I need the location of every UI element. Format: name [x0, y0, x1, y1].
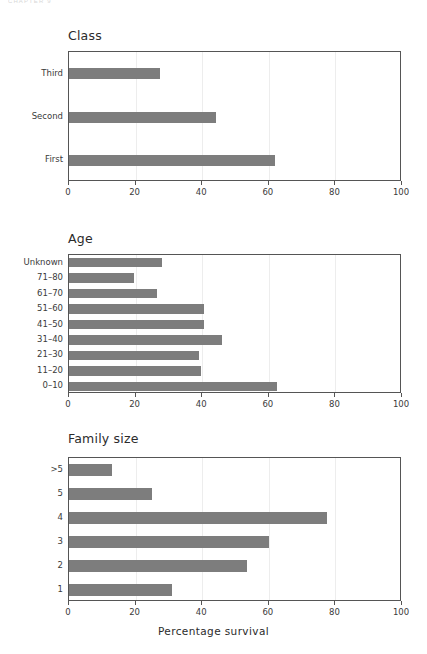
bar-row: [69, 536, 402, 548]
category-label: 4: [58, 512, 63, 522]
bar-row: [69, 289, 402, 299]
gridline: [269, 458, 270, 600]
x-tick-label: 60: [262, 607, 273, 617]
x-tick: [135, 393, 136, 397]
category-label: Third: [41, 68, 63, 78]
bar: [69, 68, 160, 79]
x-tick-label: 80: [329, 607, 340, 617]
bar-row: [69, 273, 402, 283]
x-tick-label: 0: [65, 399, 70, 409]
bar-row: [69, 382, 402, 392]
bar-row: [69, 560, 402, 572]
x-tick: [334, 393, 335, 397]
category-label: 61–70: [37, 288, 63, 298]
category-label: Second: [32, 111, 63, 121]
category-label: 0–10: [43, 380, 63, 390]
category-label: >5: [50, 464, 63, 474]
category-label: 1: [58, 584, 63, 594]
bar: [69, 560, 247, 572]
chart-title: Family size: [68, 431, 139, 446]
x-tick: [401, 393, 402, 397]
x-tick-label: 40: [196, 607, 207, 617]
x-tick: [401, 601, 402, 605]
x-tick: [268, 601, 269, 605]
bar-row: [69, 366, 402, 376]
category-label: 5: [58, 488, 63, 498]
plot-area: [68, 457, 401, 601]
x-tick-label: 80: [329, 187, 340, 197]
category-label: 3: [58, 536, 63, 546]
category-label: 31–40: [37, 334, 63, 344]
x-tick-label: 100: [393, 187, 409, 197]
x-tick-label: 100: [393, 607, 409, 617]
bar: [69, 382, 277, 392]
running-header: CHAPTER 9: [8, 0, 52, 5]
x-tick-label: 60: [262, 399, 273, 409]
x-tick: [268, 181, 269, 185]
x-tick-label: 0: [65, 187, 70, 197]
bar-row: [69, 68, 402, 79]
x-tick: [268, 393, 269, 397]
x-tick-label: 100: [393, 399, 409, 409]
bar: [69, 351, 199, 361]
bar: [69, 335, 222, 345]
x-tick-label: 40: [196, 399, 207, 409]
bar-row: [69, 304, 402, 314]
bar-row: [69, 335, 402, 345]
x-tick-label: 20: [129, 399, 140, 409]
bar-row: [69, 584, 402, 596]
gridline: [136, 458, 137, 600]
x-tick: [135, 181, 136, 185]
x-tick: [201, 393, 202, 397]
bar: [69, 320, 204, 330]
bar: [69, 304, 204, 314]
category-label: Unknown: [24, 257, 63, 267]
x-tick: [334, 181, 335, 185]
category-label: 2: [58, 560, 63, 570]
x-tick: [401, 181, 402, 185]
bar-row: [69, 512, 402, 524]
bar: [69, 289, 157, 299]
bar-row: [69, 464, 402, 476]
bar: [69, 488, 152, 500]
x-tick: [334, 601, 335, 605]
category-label: 51–60: [37, 303, 63, 313]
gridline: [202, 458, 203, 600]
bar-row: [69, 488, 402, 500]
x-axis-title: Percentage survival: [0, 625, 427, 637]
x-tick: [201, 181, 202, 185]
category-label: 11–20: [37, 365, 63, 375]
bar: [69, 536, 269, 548]
gridline: [335, 458, 336, 600]
x-tick-label: 60: [262, 187, 273, 197]
chart-title: Age: [68, 231, 93, 246]
x-tick: [135, 601, 136, 605]
category-label: First: [45, 154, 63, 164]
x-tick-label: 20: [129, 607, 140, 617]
x-tick: [201, 601, 202, 605]
bar-row: [69, 320, 402, 330]
x-tick: [68, 393, 69, 397]
bar: [69, 155, 275, 166]
x-tick-label: 0: [65, 607, 70, 617]
x-tick-label: 80: [329, 399, 340, 409]
bar: [69, 258, 162, 268]
category-label: 41–50: [37, 319, 63, 329]
bar: [69, 366, 201, 376]
category-label: 71–80: [37, 272, 63, 282]
bar: [69, 584, 172, 596]
bar: [69, 273, 134, 283]
x-tick-label: 40: [196, 187, 207, 197]
category-label: 21–30: [37, 349, 63, 359]
bar: [69, 464, 112, 476]
plot-area: [68, 51, 401, 181]
plot-area: [68, 254, 401, 393]
x-tick: [68, 601, 69, 605]
x-tick: [68, 181, 69, 185]
x-tick-label: 20: [129, 187, 140, 197]
chart-title: Class: [68, 28, 102, 43]
bar-row: [69, 155, 402, 166]
bar: [69, 112, 216, 123]
bar-row: [69, 112, 402, 123]
bar: [69, 512, 327, 524]
